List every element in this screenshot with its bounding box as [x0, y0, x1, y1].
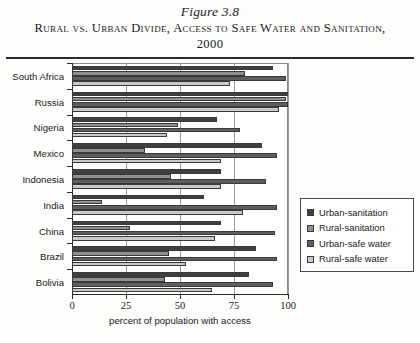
- y-tick: [67, 63, 72, 64]
- x-tick-label: 0: [69, 300, 74, 311]
- legend-item: Urban-sanitation: [307, 208, 408, 218]
- gridline: [288, 63, 289, 295]
- chart-area: South AfricaRussiaNigeriaMexicoIndonesia…: [0, 59, 420, 343]
- category-label: Bolivia: [0, 277, 64, 288]
- category-label: Nigeria: [0, 122, 64, 133]
- bar: [72, 200, 102, 205]
- y-tick: [67, 166, 72, 167]
- figure-title-block: Figure 3.8 Rural vs. Urban Divide, Acces…: [0, 0, 420, 52]
- bar: [72, 92, 288, 97]
- bar: [72, 257, 277, 262]
- x-tick: [126, 295, 127, 299]
- x-tick: [72, 295, 73, 299]
- bar: [72, 221, 221, 226]
- bar: [72, 97, 286, 102]
- bar: [72, 66, 273, 71]
- figure-number: Figure 3.8: [0, 4, 420, 20]
- bar: [72, 174, 171, 179]
- y-tick: [67, 243, 72, 244]
- bar: [72, 76, 286, 81]
- bar: [72, 117, 217, 122]
- bar: [72, 179, 266, 184]
- y-tick: [67, 218, 72, 219]
- legend-item: Rural-safe water: [307, 254, 408, 264]
- y-tick: [67, 140, 72, 141]
- bar: [72, 272, 249, 277]
- y-tick: [67, 89, 72, 90]
- figure-root: Figure 3.8 Rural vs. Urban Divide, Acces…: [0, 0, 420, 343]
- category-label: Russia: [0, 96, 64, 107]
- legend-swatch-icon: [307, 209, 314, 216]
- chart-legend: Urban-sanitation Rural-sanitation Urban-…: [300, 198, 414, 272]
- bar: [72, 148, 145, 153]
- legend-swatch-icon: [307, 225, 314, 232]
- legend-swatch-icon: [307, 256, 314, 263]
- bar: [72, 236, 215, 241]
- bar: [72, 143, 262, 148]
- bar: [72, 133, 167, 138]
- category-label: Indonesia: [0, 174, 64, 185]
- bar: [72, 231, 275, 236]
- y-tick: [67, 115, 72, 116]
- legend-item-label: Rural-safe water: [319, 254, 388, 264]
- bar: [72, 251, 169, 256]
- bar: [72, 107, 279, 112]
- page-title: Rural vs. Urban Divide, Access to Safe W…: [0, 20, 420, 52]
- bar: [72, 246, 256, 251]
- bar: [72, 205, 277, 210]
- category-label: China: [0, 225, 64, 236]
- bar: [72, 153, 277, 158]
- bar: [72, 128, 240, 133]
- x-axis-title: percent of population with access: [72, 315, 288, 326]
- x-tick: [180, 295, 181, 299]
- x-tick: [288, 295, 289, 299]
- bar: [72, 123, 178, 128]
- bar: [72, 169, 221, 174]
- bar: [72, 226, 130, 231]
- legend-item-label: Urban-safe water: [319, 239, 391, 249]
- legend-item-label: Rural-sanitation: [319, 223, 385, 233]
- bar: [72, 102, 288, 107]
- bar: [72, 262, 186, 267]
- bar: [72, 282, 273, 287]
- category-label: Mexico: [0, 148, 64, 159]
- category-label: South Africa: [0, 70, 64, 81]
- bar: [72, 71, 245, 76]
- legend-swatch-icon: [307, 240, 314, 247]
- bar: [72, 184, 221, 189]
- x-tick: [234, 295, 235, 299]
- bar: [72, 81, 230, 86]
- category-label: India: [0, 199, 64, 210]
- category-label: Brazil: [0, 251, 64, 262]
- bar: [72, 210, 243, 215]
- x-tick-label: 25: [121, 300, 132, 311]
- bar: [72, 288, 212, 293]
- bar: [72, 277, 165, 282]
- x-tick-label: 50: [175, 300, 186, 311]
- y-tick: [67, 269, 72, 270]
- legend-item-label: Urban-sanitation: [319, 208, 388, 218]
- x-tick-label: 75: [229, 300, 240, 311]
- bar: [72, 195, 204, 200]
- y-tick: [67, 192, 72, 193]
- legend-item: Rural-sanitation: [307, 223, 408, 233]
- bar: [72, 159, 221, 164]
- x-tick-label: 100: [280, 300, 296, 311]
- legend-item: Urban-safe water: [307, 239, 408, 249]
